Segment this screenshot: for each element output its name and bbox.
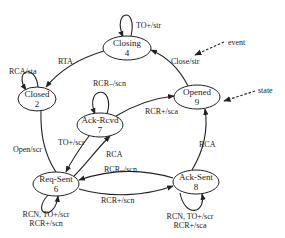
edge-opened-to-closing [151, 50, 188, 86]
state-pointer [224, 91, 255, 101]
state-name: Ack-Rcvd [82, 115, 119, 125]
state-diagram: event state Closing 4 Closed 2 Opened 9 … [0, 0, 285, 238]
state-closed: Closed 2 [18, 87, 56, 111]
label-closed-self: RCA/sta [9, 67, 37, 76]
state-number: 7 [98, 125, 103, 135]
event-pointer [195, 42, 224, 55]
edge-closed-to-reqsent [41, 111, 56, 172]
state-number: 4 [125, 48, 130, 58]
label-reqsent-self-2: RCR+/scn [29, 219, 62, 228]
label-close-str: Close/str [171, 57, 200, 66]
state-closing: Closing 4 [103, 36, 151, 60]
state-number: 6 [54, 184, 59, 194]
label-reqsent-self-1: RCN, TO+/scr [23, 210, 70, 219]
label-rca-acksent: RCA [199, 140, 216, 149]
label-acksent-self-1: RCN, TO+/scr [167, 212, 214, 221]
state-req-sent: Req-Sent 6 [33, 172, 79, 196]
state-number: 8 [194, 182, 199, 192]
event-annotation: event [228, 38, 246, 47]
label-rcr-minus-scn: RCR–/scn [104, 165, 137, 174]
state-ack-sent: Ack-Sent 8 [173, 170, 219, 194]
state-name: Ack-Sent [179, 172, 213, 182]
label-rcr-plus-scn: RCR+/scn [101, 196, 134, 205]
state-name: Closing [113, 38, 142, 48]
state-name: Closed [24, 89, 50, 99]
state-ack-rcvd: Ack-Rcvd 7 [77, 113, 123, 137]
state-annotation: state [258, 86, 273, 95]
edge-closing-self [120, 15, 132, 37]
label-closing-self: TO+/str [136, 21, 162, 30]
edge-ackrcvd-self [93, 92, 109, 114]
label-ackrcvd-self: RCR–/scn [93, 79, 126, 88]
label-rta: RTA [58, 57, 73, 66]
state-opened: Opened 9 [174, 85, 220, 109]
edge-acksent-self [180, 193, 203, 210]
label-rca-reqsent: RCA [106, 150, 123, 159]
label-open-scr: Open/scr [13, 145, 42, 154]
label-acksent-self-2: RCR+/sca [174, 221, 207, 230]
label-rcr-plus-sca: RCR+/sca [145, 107, 178, 116]
state-name: Req-Sent [39, 174, 73, 184]
state-number: 2 [35, 99, 40, 109]
edge-reqsent-to-acksent [79, 186, 173, 195]
label-to-plus-scr: TO+/scr [58, 138, 85, 147]
state-name: Opened [183, 87, 211, 97]
state-number: 9 [195, 97, 200, 107]
